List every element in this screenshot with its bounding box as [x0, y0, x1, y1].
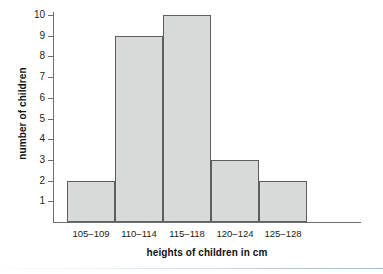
y-axis-tick-label-text: 1 [20, 196, 45, 206]
y-axis-tick-label-text: 6 [20, 93, 45, 103]
y-axis-tick [48, 98, 53, 99]
histogram-bar [163, 15, 211, 222]
y-axis-tick [48, 77, 53, 78]
histogram-bar [211, 160, 259, 222]
histogram-chart: number of children 12345678910 105–10911… [0, 0, 383, 274]
chart-screenshot: number of children 12345678910 105–10911… [0, 0, 383, 274]
y-axis-line [53, 12, 54, 223]
histogram-bar [115, 36, 163, 222]
y-axis-tick-label-text: 9 [20, 31, 45, 41]
y-axis-tick [48, 15, 53, 16]
y-axis-tick-label: 6 [20, 93, 45, 103]
y-axis-tick [48, 36, 53, 37]
histogram-bar [259, 181, 307, 222]
x-axis-tick-label: 125–128 [253, 228, 313, 239]
y-axis-tick-label-text: 5 [20, 114, 45, 124]
x-axis-title: heights of children in cm [53, 247, 361, 258]
y-axis-tick-label: 2 [20, 176, 45, 186]
y-axis-tick-label: 8 [20, 51, 45, 61]
y-axis-tick [48, 201, 53, 202]
y-axis-tick-label: 9 [20, 31, 45, 41]
y-axis-tick [48, 160, 53, 161]
y-axis-tick-label-text: 7 [20, 72, 45, 82]
y-axis-tick-label: 4 [20, 134, 45, 144]
y-axis-tick [48, 56, 53, 57]
x-axis-line [53, 222, 361, 223]
y-axis-tick-label-text: 10 [20, 10, 45, 20]
y-axis-tick-label-text: 2 [20, 176, 45, 186]
y-axis-tick-label: 3 [20, 155, 45, 165]
y-axis-tick [48, 181, 53, 182]
y-axis-tick-label-text: 3 [20, 155, 45, 165]
y-axis-tick-label: 5 [20, 114, 45, 124]
y-axis-tick-label: 7 [20, 72, 45, 82]
y-axis-tick [48, 119, 53, 120]
y-axis-tick-label-text: 4 [20, 134, 45, 144]
y-axis-tick-label: 10 [20, 10, 45, 20]
y-axis-tick-label: 1 [20, 196, 45, 206]
y-axis-tick [48, 139, 53, 140]
histogram-bar [67, 181, 115, 222]
y-axis-tick-label-text: 8 [20, 51, 45, 61]
bottom-accent-rule [0, 268, 383, 269]
